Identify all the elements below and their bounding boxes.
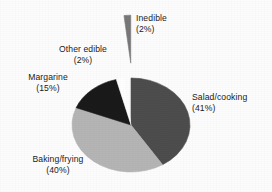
slice-label-baking-frying-value: (40%) (12, 165, 104, 176)
slice-label-other-edible-name: Other edible (40, 44, 126, 55)
slice-label-inedible: Inedible (2%) (136, 13, 167, 34)
slice-label-salad-cooking-value: (41%) (192, 103, 247, 114)
slice-label-salad-cooking: Salad/cooking (41%) (192, 92, 247, 113)
slice-label-inedible-name: Inedible (136, 13, 167, 24)
slice-label-salad-cooking-name: Salad/cooking (192, 92, 247, 103)
pie-chart-figure: Inedible (2%) Other edible (2%) Margarin… (0, 0, 272, 192)
slice-label-baking-frying-name: Baking/frying (12, 154, 104, 165)
slice-label-margarine-name: Margarine (10, 72, 86, 83)
slice-label-margarine-value: (15%) (10, 83, 86, 94)
slice-label-other-edible: Other edible (2%) (40, 44, 126, 65)
slice-label-other-edible-value: (2%) (40, 55, 126, 66)
slice-label-margarine: Margarine (15%) (10, 72, 86, 93)
slice-label-baking-frying: Baking/frying (40%) (12, 154, 104, 175)
slice-label-inedible-value: (2%) (136, 24, 167, 35)
